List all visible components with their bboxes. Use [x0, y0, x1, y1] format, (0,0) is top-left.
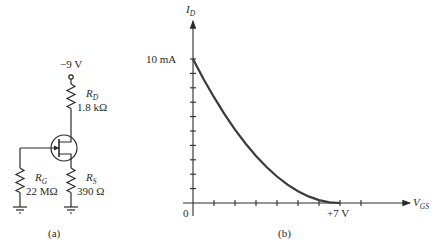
rg-value-label: 22 MΩ: [26, 185, 58, 197]
x-tick-label-7v: +7 V: [327, 207, 349, 219]
figure-canvas: −9 V RD 1.8 kΩ RG 22 MΩ RS 390 Ω (a): [0, 0, 434, 242]
rd-value-label: 1.8 kΩ: [77, 101, 107, 113]
transfer-curve: [193, 59, 340, 203]
resistor-rs-icon: [67, 168, 75, 193]
rg-name-label: RG: [34, 171, 48, 186]
rs-value-label: 390 Ω: [77, 185, 104, 197]
resistor-rd-icon: [67, 84, 75, 109]
x-axis-label: VGS: [413, 196, 429, 211]
ground-icon: [64, 207, 78, 213]
origin-label: 0: [183, 207, 189, 219]
y-axis-label: ID: [185, 3, 196, 18]
supply-terminal: [69, 75, 73, 79]
ground-icon: [13, 207, 27, 213]
rd-name-label: RD: [85, 87, 99, 102]
resistor-rg-icon: [16, 168, 24, 193]
y-tick-label-10ma: 10 mA: [146, 53, 176, 65]
caption-a: (a): [48, 227, 61, 240]
caption-b: (b): [278, 227, 291, 240]
transfer-graph: [183, 21, 410, 216]
supply-voltage-label: −9 V: [60, 58, 82, 70]
rs-name-label: RS: [85, 171, 97, 186]
